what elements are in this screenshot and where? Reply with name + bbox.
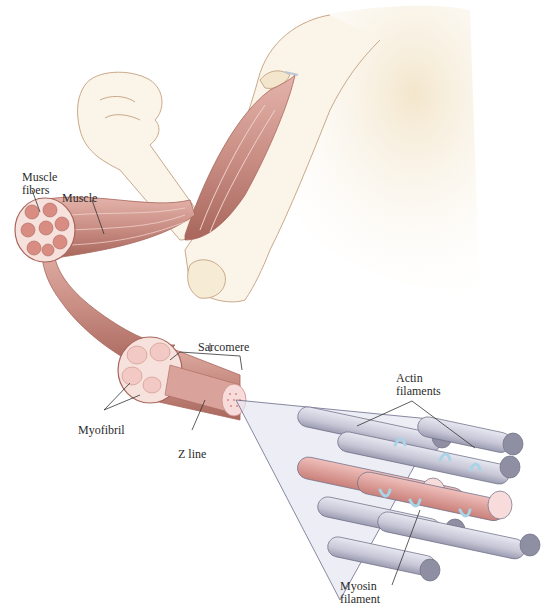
label-myofibril: Myofibril xyxy=(78,424,125,437)
label-myosin-filament: Myosin filament xyxy=(340,580,380,606)
label-sarcomere: Sarcomere xyxy=(198,341,249,354)
label-muscle-fibers: Muscle fibers xyxy=(22,171,57,197)
arm-illustration xyxy=(78,6,480,302)
diagram-illustration xyxy=(0,0,556,613)
label-z-line: Z line xyxy=(178,448,206,461)
label-muscle: Muscle xyxy=(62,192,97,205)
muscle-structure-diagram: Muscle fibers Muscle Sarcomere Myofibril… xyxy=(0,0,556,613)
label-actin-filaments: Actin filaments xyxy=(396,372,441,398)
